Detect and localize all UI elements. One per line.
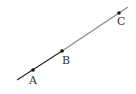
line-segment-left-to-b xyxy=(17,51,62,80)
point-c-label: C xyxy=(117,15,125,28)
point-a-dot xyxy=(31,68,35,72)
point-b-label: B xyxy=(62,54,70,67)
point-a-label: A xyxy=(28,74,38,87)
point-b-dot xyxy=(60,49,64,53)
diagram-svg: A B C xyxy=(0,0,136,94)
geometry-diagram: A B C xyxy=(0,0,136,94)
